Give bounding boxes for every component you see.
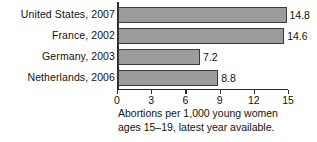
chart-caption: Abortions per 1,000 young women ages 15–… [118,107,317,134]
bar-germany [118,49,200,65]
bar-row: 7.2 [118,49,317,65]
bar-value-label: 7.2 [200,52,218,63]
category-label: France, 2002 [0,30,115,41]
bars-group: 14.8 14.6 7.2 8.8 [118,2,317,88]
bar-row: 14.8 [118,7,317,23]
bar-row: 8.8 [118,70,317,86]
category-axis-labels: United States, 2007 France, 2002 Germany… [0,0,115,90]
bar-row: 14.6 [118,28,317,44]
category-label: United States, 2007 [0,9,115,20]
x-tick-label: 0 [114,94,120,106]
bar-value-label: 14.8 [287,10,310,21]
caption-line-1: Abortions per 1,000 young women [118,107,317,121]
x-tick-label: 12 [248,94,260,106]
bar-value-label: 8.8 [218,73,236,84]
x-tick-label: 15 [282,94,294,106]
x-tick-label: 6 [182,94,188,106]
bar-france [118,28,284,44]
category-label: Netherlands, 2006 [0,72,115,83]
bar-chart-figure: United States, 2007 France, 2002 Germany… [0,0,317,142]
category-label: Germany, 2003 [0,51,115,62]
x-tick-label: 9 [217,94,223,106]
x-tick-label: 3 [148,94,154,106]
bar-united-states [118,7,287,23]
bar-value-label: 14.6 [284,31,307,42]
bar-netherlands [118,70,218,86]
caption-line-2: ages 15–19, latest year available. [118,121,317,135]
